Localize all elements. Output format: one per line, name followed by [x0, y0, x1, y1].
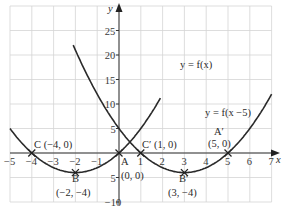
y-tick-label: 5: [110, 124, 115, 135]
point-b-coords: (−2, −4): [56, 187, 91, 199]
x-tick-label: 3: [181, 156, 186, 167]
graph: y x −5−4−3−2−11234567 2520151055−10 y = …: [0, 0, 285, 208]
y-axis-arrow-icon: [116, 3, 123, 12]
point-b-prime-label: B′: [179, 173, 188, 184]
x-tick-label: −4: [26, 156, 38, 167]
point-a-prime-label: A′: [214, 126, 224, 137]
x-tick-label: −5: [4, 156, 15, 167]
y-tick-label: 15: [105, 75, 116, 86]
point-a-prime-coords: (5, 0): [208, 138, 231, 150]
point-a-label: A: [121, 156, 129, 167]
x-tick-label: 1: [138, 156, 143, 167]
curve1-label: y = f(x): [180, 59, 213, 71]
x-tick-label: 2: [160, 156, 165, 167]
y-tick-label: 5: [110, 173, 115, 184]
y-tick-label: 25: [105, 26, 116, 37]
y-axis-label: y: [107, 3, 113, 14]
curve2-label: y = f(x −5): [205, 107, 251, 119]
point-c-prime-label: C′ (1, 0): [142, 139, 177, 151]
x-tick-label: 5: [225, 156, 230, 167]
x-tick-label: 6: [247, 156, 252, 167]
x-tick-label: 7: [269, 156, 274, 167]
x-axis-label: x: [275, 154, 281, 165]
x-tick-label: 4: [203, 156, 209, 167]
x-tick-label: −2: [69, 156, 80, 167]
point-c-label: C (−4, 0): [34, 139, 73, 151]
x-tick-labels: −5−4−3−2−11234567: [4, 156, 274, 167]
y-tick-label: 20: [105, 50, 116, 61]
point-b-prime-coords: (3, −4): [168, 187, 197, 199]
point-b-label: B: [72, 173, 79, 184]
point-a-coords: (0, 0): [121, 170, 144, 182]
